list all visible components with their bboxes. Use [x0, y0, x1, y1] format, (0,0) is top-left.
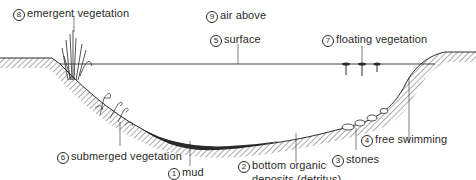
- number-badge: 5: [210, 35, 222, 47]
- label-free-swimming: 4free swimming: [361, 133, 447, 147]
- number-badge: 2: [238, 161, 250, 173]
- label-surface: 5surface: [210, 33, 261, 47]
- number-badge: 8: [13, 9, 25, 21]
- label-floating-vegetation: 7floating vegetation: [322, 33, 427, 47]
- label-bottom-organic-deposits: 2bottom organic deposits (detritus): [238, 159, 341, 180]
- label-submerged-vegetation: 6submerged vegetation: [57, 150, 182, 164]
- emergent-vegetation-icon: [62, 30, 92, 80]
- number-badge: 1: [168, 168, 180, 180]
- number-badge: 9: [206, 11, 218, 23]
- number-badge: 7: [322, 35, 334, 47]
- label-air-above: 9air above: [206, 9, 266, 23]
- number-badge: 6: [57, 152, 69, 164]
- floating-vegetation-icon: [342, 63, 381, 77]
- label-emergent-vegetation: 8emergent vegetation: [13, 7, 129, 21]
- label-mud: 1mud: [168, 166, 204, 180]
- number-badge: 4: [361, 135, 373, 147]
